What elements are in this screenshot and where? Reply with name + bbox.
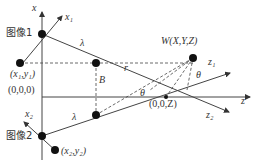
- zpoint-label: (0,0,Z): [149, 99, 177, 109]
- point2-dot: [51, 146, 59, 154]
- x2-axis-label: x₂: [25, 109, 33, 119]
- lower-mid-dot: [92, 111, 100, 119]
- point1-dot: [16, 59, 24, 67]
- point1-label: (x₁,y₁): [10, 69, 35, 79]
- z2-axis-label: z₂: [206, 110, 213, 120]
- image2-dot: [38, 132, 46, 140]
- x1-axis-label: x₁: [65, 12, 73, 22]
- z1-axis-label: z₁: [208, 57, 215, 67]
- lambda-bottom-label: λ: [72, 112, 76, 122]
- stereo-geometry-diagram: [0, 0, 262, 166]
- r-label: r: [124, 63, 128, 73]
- z-axis-label: z: [241, 96, 245, 106]
- w-label: W(X,Y,Z): [161, 36, 197, 46]
- z1-axis-line: [42, 73, 230, 136]
- theta-right-label: θ: [196, 70, 201, 80]
- upper-mid-dot: [92, 59, 100, 67]
- origin-label: (0,0,0): [8, 85, 35, 95]
- image1-label: 图像1: [6, 28, 32, 38]
- lambda-top-label: λ: [80, 38, 84, 48]
- image1-dot: [38, 30, 46, 38]
- x-axis-label: x: [32, 3, 36, 13]
- w-dot: [189, 54, 197, 62]
- theta-left-label: θ: [140, 88, 145, 98]
- B-label: B: [99, 75, 105, 85]
- image2-label: 图像2: [6, 131, 32, 141]
- point2-label: (x₂,y₂): [61, 146, 86, 156]
